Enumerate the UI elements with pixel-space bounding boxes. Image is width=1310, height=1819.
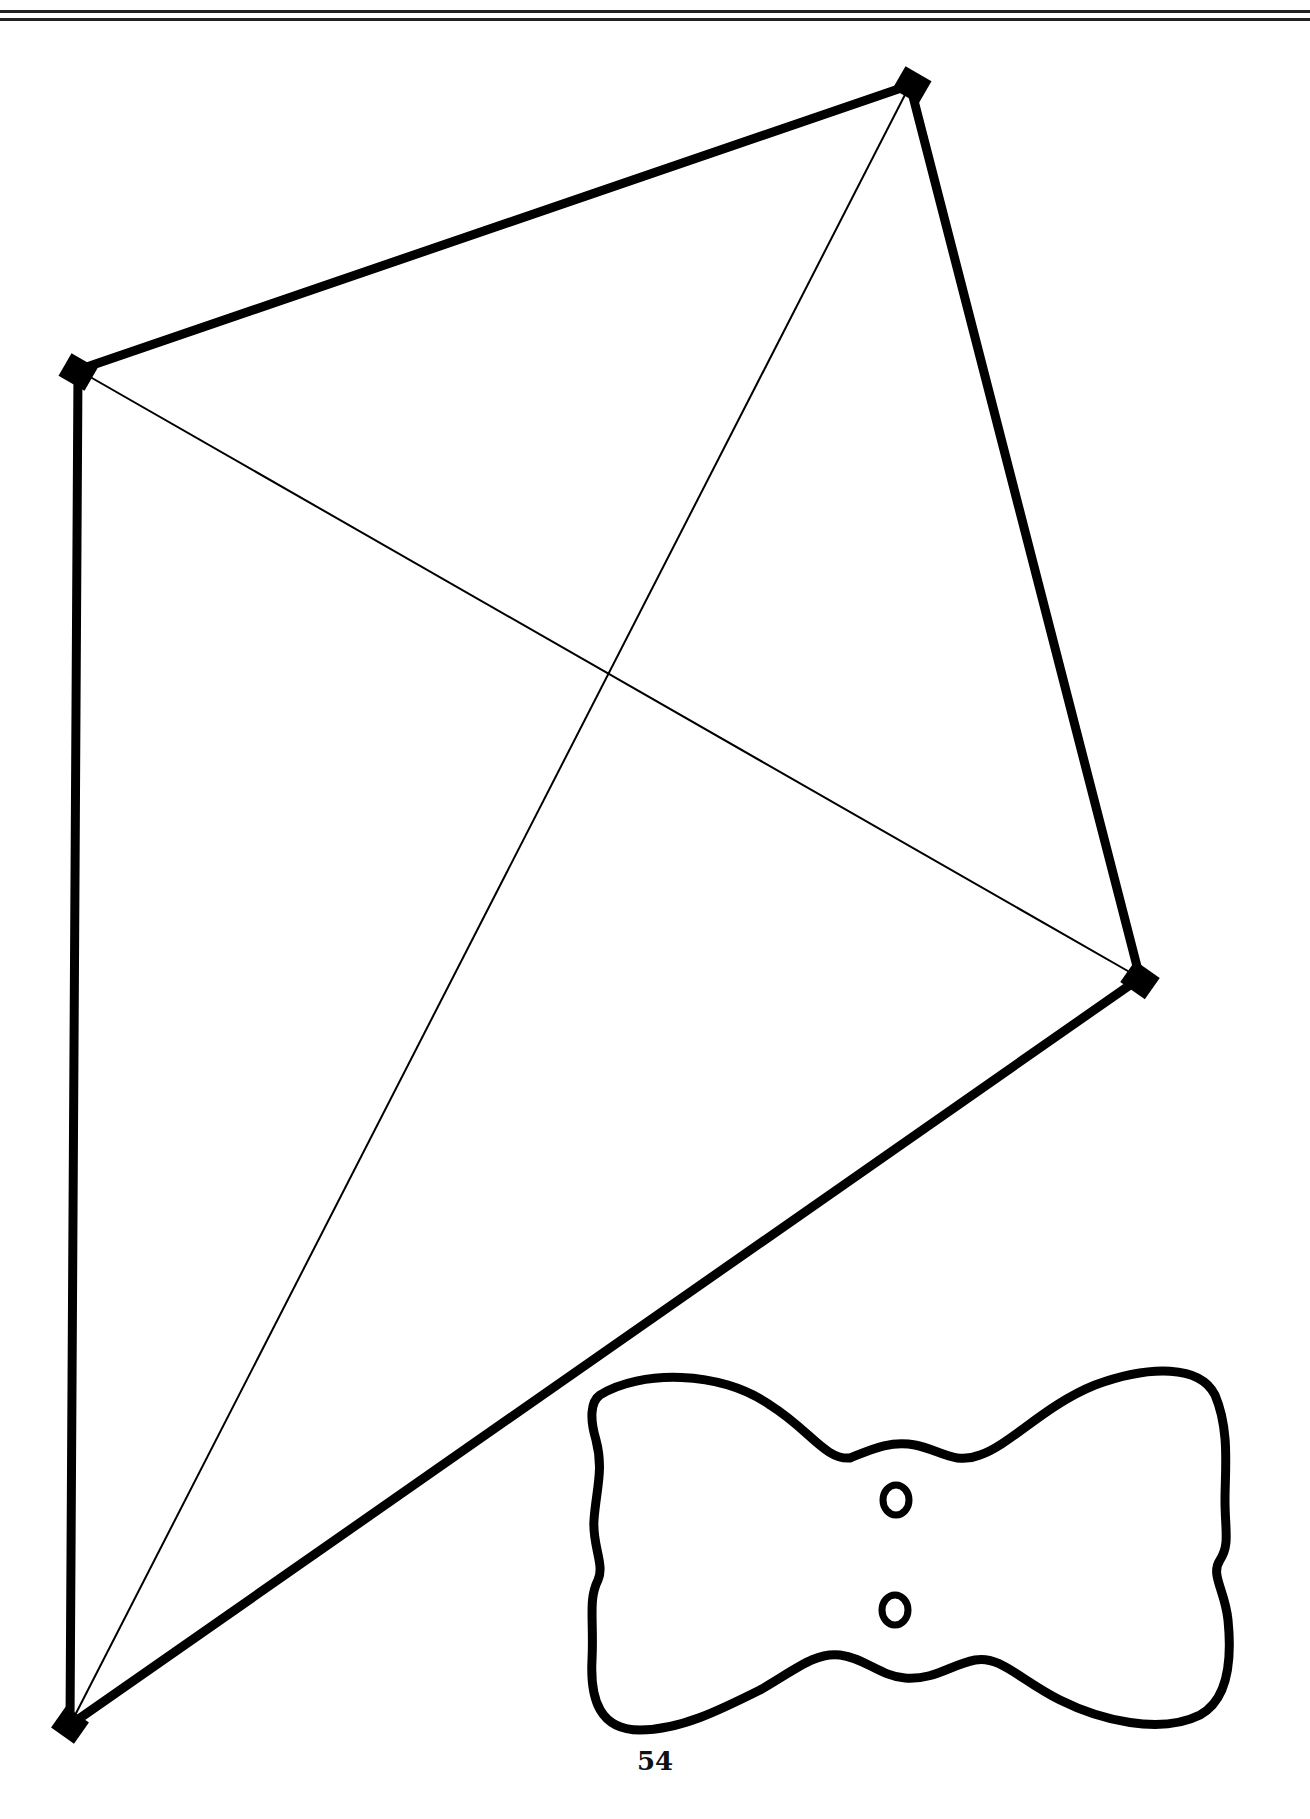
bow-holes — [882, 1485, 909, 1625]
bow-hole-lower — [882, 1595, 908, 1625]
page-number: 54 — [0, 1746, 1310, 1776]
bow-hole-upper — [883, 1485, 909, 1515]
corner-marker-top — [893, 66, 932, 104]
kite-template-diagram — [0, 0, 1310, 1819]
bow-shape — [592, 1371, 1230, 1730]
kite-outline — [70, 85, 1140, 1725]
kite-crossbars — [70, 85, 1140, 1725]
corner-marker-left — [59, 353, 98, 391]
kite-cross-spar-line — [78, 370, 1140, 978]
corner-marker-right — [1120, 961, 1159, 1000]
